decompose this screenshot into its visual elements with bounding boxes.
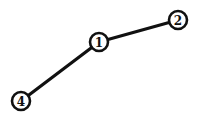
node-4-label: 4 xyxy=(17,95,25,109)
edge-1-2 xyxy=(99,20,178,42)
edge-4-1 xyxy=(21,42,99,101)
node-4: 4 xyxy=(12,92,30,110)
node-1: 1 xyxy=(90,33,108,51)
graph-diagram: 1 2 4 xyxy=(0,0,201,123)
node-1-label: 1 xyxy=(95,36,103,50)
node-2-label: 2 xyxy=(174,14,182,28)
node-2: 2 xyxy=(169,11,187,29)
